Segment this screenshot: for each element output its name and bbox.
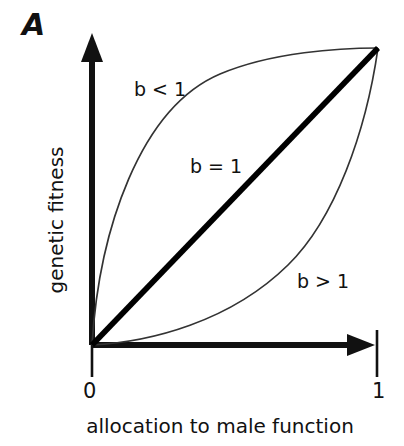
- figure-panel: A genetic fitness allocation to male fun…: [0, 0, 404, 446]
- y-axis-arrowhead: [81, 33, 103, 62]
- x-axis-arrowhead: [347, 334, 375, 356]
- y-axis-label: genetic fitness: [46, 120, 66, 320]
- x-axis-tick-label-0: 0: [83, 381, 96, 402]
- x-axis-tick-label-1: 1: [372, 381, 385, 402]
- annotation-b-greater-than-1: b > 1: [297, 272, 349, 291]
- annotation-b-equal-1: b = 1: [190, 157, 242, 176]
- x-axis-label: allocation to male function: [60, 416, 380, 436]
- panel-label: A: [22, 10, 45, 40]
- annotation-b-less-than-1: b < 1: [134, 80, 186, 99]
